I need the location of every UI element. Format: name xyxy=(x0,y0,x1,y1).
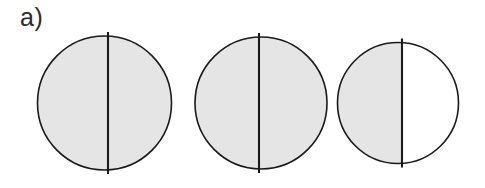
circle-2-right-region xyxy=(259,35,329,171)
circle-group-3 xyxy=(336,39,461,168)
circles-diagram xyxy=(0,0,485,188)
circle-3-right-region xyxy=(402,41,461,166)
circle-3-left-region xyxy=(336,41,403,166)
circle-group-2 xyxy=(193,33,329,173)
circle-2-left-region xyxy=(193,35,259,171)
figure-panel: a) xyxy=(0,0,485,188)
circle-group-1 xyxy=(36,32,174,174)
circle-1-right-region xyxy=(108,34,174,172)
circle-1-left-region xyxy=(36,34,109,172)
